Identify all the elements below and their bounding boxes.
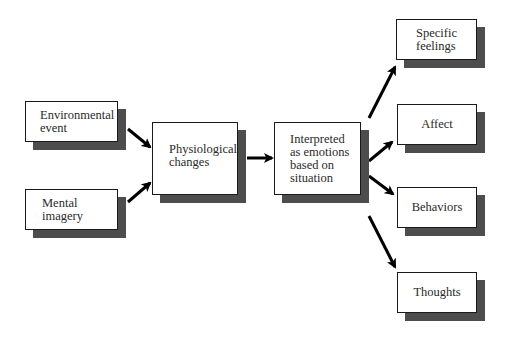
- node-label: Thoughts: [413, 286, 460, 299]
- arrow-interpreted-to-thoughts: [369, 216, 395, 267]
- node-physiological-changes: Physiological changes: [152, 122, 238, 195]
- arrow-interpreted-to-specific-feelings: [369, 67, 395, 118]
- arrow-interpreted-to-affect: [369, 142, 392, 161]
- node-label: Physiological changes: [169, 143, 237, 169]
- node-label: Mental imagery: [42, 197, 83, 223]
- node-box: Thoughts: [397, 272, 477, 313]
- node-box: Behaviors: [397, 187, 477, 228]
- node-label: Environmental event: [40, 109, 114, 135]
- node-label: Specific feelings: [416, 27, 457, 53]
- emotion-flow-diagram: Environmental event Mental imagery Physi…: [0, 0, 508, 340]
- arrow-mental-to-physiological: [128, 183, 150, 202]
- node-box: Interpreted as emotions based on situati…: [274, 122, 361, 195]
- node-box: Environmental event: [25, 101, 118, 142]
- node-label: Affect: [421, 118, 453, 131]
- node-box: Affect: [397, 104, 477, 145]
- node-box: Mental imagery: [25, 189, 118, 230]
- node-box: Physiological changes: [152, 122, 238, 195]
- node-thoughts: Thoughts: [397, 272, 477, 313]
- node-label: Interpreted as emotions based on situati…: [290, 133, 349, 185]
- node-box: Specific feelings: [396, 19, 477, 60]
- node-label: Behaviors: [412, 201, 463, 214]
- node-affect: Affect: [397, 104, 477, 145]
- arrow-environmental-to-physiological: [128, 129, 150, 147]
- node-specific-feelings: Specific feelings: [396, 19, 477, 60]
- node-environmental-event: Environmental event: [25, 101, 118, 142]
- node-interpreted-as-emotions: Interpreted as emotions based on situati…: [274, 122, 361, 195]
- arrow-interpreted-to-behaviors: [369, 176, 393, 194]
- node-mental-imagery: Mental imagery: [25, 189, 118, 230]
- node-behaviors: Behaviors: [397, 187, 477, 228]
